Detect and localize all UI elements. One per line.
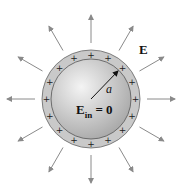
plus-charge: + bbox=[46, 111, 54, 121]
field-label: E bbox=[139, 42, 148, 58]
plus-charge: + bbox=[87, 139, 95, 149]
field-arrow bbox=[18, 57, 42, 71]
field-arrow bbox=[119, 147, 133, 171]
plus-charge: + bbox=[104, 53, 112, 63]
field-arrow bbox=[49, 26, 63, 50]
field-arrow bbox=[139, 127, 163, 141]
plus-charge: + bbox=[128, 111, 136, 121]
field-arrow bbox=[119, 26, 133, 50]
plus-charge: + bbox=[119, 125, 127, 135]
plus-charge: + bbox=[128, 77, 136, 87]
inside-field-subscript: in bbox=[85, 110, 93, 120]
radius-label: a bbox=[106, 82, 112, 97]
plus-charge: + bbox=[70, 135, 78, 145]
plus-charge: + bbox=[46, 77, 54, 87]
field-arrow bbox=[49, 147, 63, 171]
field-arrow bbox=[139, 57, 163, 71]
plus-charge: + bbox=[43, 94, 51, 104]
inside-field-symbol: E bbox=[76, 102, 85, 117]
plus-charge: + bbox=[87, 50, 95, 60]
inside-field-label: Ein = 0 bbox=[76, 102, 113, 120]
plus-charge: + bbox=[70, 53, 78, 63]
inside-field-value: = 0 bbox=[95, 102, 112, 117]
plus-charge: + bbox=[132, 94, 140, 104]
charged-conductor-diagram: ++++++++++++++++ bbox=[0, 0, 184, 194]
plus-charge: + bbox=[56, 63, 64, 73]
plus-charge: + bbox=[119, 63, 127, 73]
field-arrow bbox=[18, 127, 42, 141]
plus-charge: + bbox=[56, 125, 64, 135]
plus-charge: + bbox=[104, 135, 112, 145]
